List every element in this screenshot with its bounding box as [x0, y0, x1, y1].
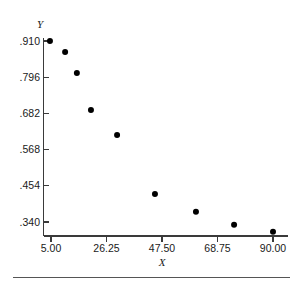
data-point-marker — [231, 222, 237, 228]
data-point-marker — [47, 38, 53, 44]
x-tick-label: 47.50 — [149, 242, 175, 254]
x-tick-label: 26.25 — [93, 242, 119, 254]
y-tick-label: .568 — [20, 143, 41, 155]
y-axis-title: Y — [37, 18, 45, 30]
y-tick-label: .910 — [20, 35, 41, 47]
x-tick-label: 5.00 — [41, 242, 62, 254]
data-point-marker — [152, 191, 158, 197]
x-tick-label: 90.00 — [260, 242, 286, 254]
y-axis-ticks — [44, 41, 50, 222]
y-tick-label: .796 — [20, 71, 41, 83]
data-point-marker — [114, 132, 120, 138]
scatter-plot-figure: Y .910 .796 .682 .568 .454 .340 — [0, 0, 304, 290]
x-tick-label: 68.75 — [204, 242, 230, 254]
y-tick-label: .682 — [20, 107, 41, 119]
data-point-marker — [193, 209, 199, 215]
data-points-layer — [47, 38, 276, 235]
data-point-marker — [62, 49, 68, 55]
x-axis-title: X — [158, 256, 167, 268]
y-axis-tick-labels: .910 .796 .682 .568 .454 .340 — [20, 35, 41, 228]
data-point-marker — [88, 107, 94, 113]
x-axis-ticks — [51, 236, 273, 242]
data-point-marker — [270, 229, 276, 235]
data-point-marker — [74, 70, 80, 76]
x-axis-tick-labels: 5.00 26.25 47.50 68.75 90.00 — [41, 242, 287, 254]
y-tick-label: .454 — [20, 179, 41, 191]
plot-canvas: Y .910 .796 .682 .568 .454 .340 — [0, 0, 304, 290]
y-tick-label: .340 — [20, 216, 41, 228]
